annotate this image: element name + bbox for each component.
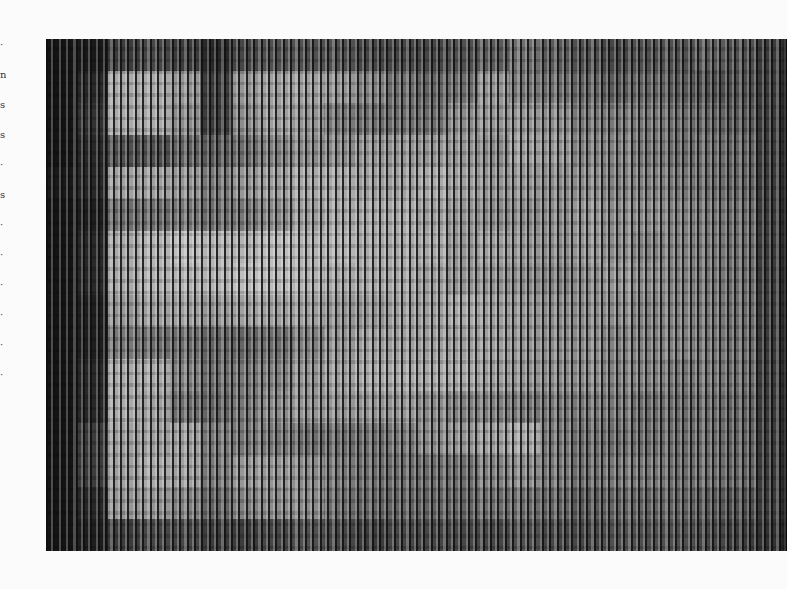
pixel-cell bbox=[386, 327, 417, 359]
pixel-cell bbox=[231, 71, 262, 103]
pixel-cell bbox=[694, 231, 725, 263]
pixel-cell bbox=[139, 519, 170, 551]
pixel-cell bbox=[417, 423, 448, 455]
pixel-cell bbox=[602, 359, 633, 391]
pixel-cell bbox=[262, 391, 293, 423]
pixel-cell bbox=[139, 487, 170, 519]
pixel-cell bbox=[46, 359, 77, 391]
pixel-cell bbox=[108, 391, 139, 423]
pixel-cell bbox=[509, 167, 540, 199]
pixel-cell bbox=[386, 135, 417, 167]
margin-glyph: · bbox=[0, 220, 6, 230]
margin-glyph: · bbox=[0, 340, 6, 350]
pixel-cell bbox=[509, 391, 540, 423]
pixel-cell bbox=[293, 327, 324, 359]
pixel-cell bbox=[355, 71, 386, 103]
pixel-cell bbox=[602, 103, 633, 135]
pixel-cell bbox=[478, 199, 509, 231]
brightness-grid bbox=[46, 39, 787, 551]
pixel-cell bbox=[386, 103, 417, 135]
pixel-cell bbox=[200, 423, 231, 455]
pixel-cell bbox=[417, 263, 448, 295]
pixel-cell bbox=[77, 231, 108, 263]
pixel-cell bbox=[170, 39, 201, 71]
pixel-cell bbox=[447, 71, 478, 103]
pixel-cell bbox=[170, 231, 201, 263]
pixel-cell bbox=[664, 167, 695, 199]
pixel-cell bbox=[756, 423, 787, 455]
pixel-cell bbox=[571, 135, 602, 167]
pixel-cell bbox=[139, 327, 170, 359]
pixel-cell bbox=[540, 455, 571, 487]
pixel-cell bbox=[324, 135, 355, 167]
pixel-cell bbox=[293, 231, 324, 263]
pixel-cell bbox=[108, 519, 139, 551]
pixel-cell bbox=[262, 167, 293, 199]
pixel-cell bbox=[170, 71, 201, 103]
pixel-cell bbox=[756, 167, 787, 199]
pixel-cell bbox=[509, 359, 540, 391]
pixel-cell bbox=[756, 487, 787, 519]
pixel-cell bbox=[478, 71, 509, 103]
pixel-cell bbox=[200, 327, 231, 359]
pixel-cell bbox=[509, 263, 540, 295]
pixel-cell bbox=[602, 71, 633, 103]
pixel-cell bbox=[633, 391, 664, 423]
pixel-cell bbox=[170, 359, 201, 391]
pixel-cell bbox=[725, 103, 756, 135]
pixel-cell bbox=[170, 167, 201, 199]
pixel-cell bbox=[46, 199, 77, 231]
pixel-cell bbox=[324, 39, 355, 71]
pixel-cell bbox=[108, 487, 139, 519]
pixel-cell bbox=[262, 455, 293, 487]
pixel-cell bbox=[633, 423, 664, 455]
pixel-cell bbox=[725, 359, 756, 391]
pixel-cell bbox=[602, 423, 633, 455]
pixel-cell bbox=[77, 103, 108, 135]
pixel-cell bbox=[602, 263, 633, 295]
pixel-cell bbox=[694, 167, 725, 199]
pixel-cell bbox=[756, 359, 787, 391]
pixel-cell bbox=[540, 423, 571, 455]
margin-glyph: · bbox=[0, 280, 6, 290]
pixel-cell bbox=[170, 295, 201, 327]
pixel-cell bbox=[694, 455, 725, 487]
pixel-cell bbox=[355, 359, 386, 391]
pixel-cell bbox=[447, 423, 478, 455]
pixel-cell bbox=[447, 327, 478, 359]
pixel-cell bbox=[293, 359, 324, 391]
pixel-cell bbox=[200, 519, 231, 551]
pixel-cell bbox=[664, 103, 695, 135]
pixel-cell bbox=[355, 487, 386, 519]
pixel-cell bbox=[324, 263, 355, 295]
pixel-cell bbox=[386, 391, 417, 423]
pixel-cell bbox=[571, 327, 602, 359]
pixel-cell bbox=[447, 455, 478, 487]
pixel-cell bbox=[46, 263, 77, 295]
pixel-cell bbox=[478, 39, 509, 71]
pixel-cell bbox=[139, 135, 170, 167]
pixel-cell bbox=[571, 455, 602, 487]
pixel-cell bbox=[293, 519, 324, 551]
pixel-cell bbox=[293, 263, 324, 295]
pixel-cell bbox=[694, 359, 725, 391]
pixel-cell bbox=[571, 487, 602, 519]
pixel-cell bbox=[262, 359, 293, 391]
pixel-cell bbox=[77, 167, 108, 199]
pixel-cell bbox=[417, 455, 448, 487]
pixel-cell bbox=[262, 263, 293, 295]
pixel-cell bbox=[478, 135, 509, 167]
pixel-cell bbox=[664, 519, 695, 551]
pixel-cell bbox=[293, 135, 324, 167]
pixel-cell bbox=[200, 167, 231, 199]
pixel-cell bbox=[108, 39, 139, 71]
pixel-cell bbox=[664, 423, 695, 455]
pixel-cell bbox=[602, 519, 633, 551]
pixel-cell bbox=[170, 423, 201, 455]
pixel-cell bbox=[540, 391, 571, 423]
pixel-cell bbox=[664, 71, 695, 103]
pixel-cell bbox=[478, 103, 509, 135]
pixel-cell bbox=[540, 39, 571, 71]
pixel-cell bbox=[200, 359, 231, 391]
pixel-cell bbox=[509, 327, 540, 359]
